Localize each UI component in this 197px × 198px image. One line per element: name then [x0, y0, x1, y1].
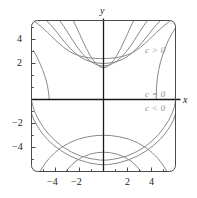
x-axis-label: x	[183, 95, 187, 105]
region-label-c-negative: c < 0	[145, 104, 166, 113]
y-tick-label-neg2: −2	[12, 118, 23, 128]
y-axis-label: y	[100, 6, 104, 16]
x-tick-label-2: 2	[125, 177, 130, 187]
contour-plot-figure: 4 2 −2 −4 −4 −2 2 4 y x c > 0 c = 0 c < …	[0, 0, 197, 198]
y-tick-label-neg4: −4	[12, 142, 23, 152]
region-label-c-positive: c > 0	[145, 46, 166, 55]
y-tick-label-4: 4	[17, 34, 22, 44]
region-label-c-zero: c = 0	[145, 90, 166, 99]
x-tick-label-neg2: −2	[71, 177, 82, 187]
x-tick-label-4: 4	[149, 177, 154, 187]
plot-canvas	[0, 0, 197, 198]
x-tick-label-neg4: −4	[47, 177, 58, 187]
y-tick-label-2: 2	[17, 58, 22, 68]
